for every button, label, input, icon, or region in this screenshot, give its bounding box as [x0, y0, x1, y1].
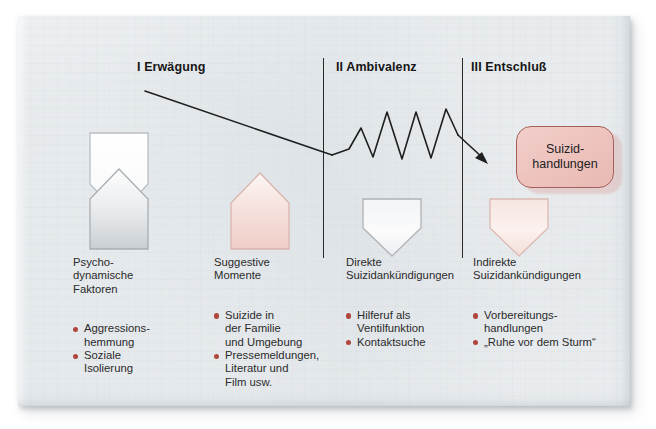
- list-item: Hilferuf als Ventilfunktion: [346, 309, 471, 336]
- result-line-1: Suizid-: [546, 142, 584, 157]
- column-bullets-3: Hilferuf als Ventilfunktion Kontaktsuche: [346, 309, 471, 349]
- column-bullets-1: Aggressions- hemmung Soziale Isolierung: [73, 322, 178, 376]
- trend-line-erwaegung: [145, 91, 332, 155]
- result-line-2: handlungen: [532, 157, 597, 172]
- diagram-page: I Erwägung II Ambivalenz III Entschluß: [18, 16, 630, 406]
- pentagon-down-col3: [363, 199, 421, 256]
- column-title-2: Suggestive Momente: [214, 256, 334, 283]
- list-item: Vorbereitungs- handlungen: [473, 309, 613, 336]
- diagram-canvas: I Erwägung II Ambivalenz III Entschluß: [18, 16, 630, 406]
- list-item: Pressemeldungen, Literatur und Film usw.: [214, 349, 334, 389]
- column-title-1: Psycho- dynamische Faktoren: [73, 256, 178, 296]
- arrow-to-result-head: [475, 152, 488, 164]
- column-title-4: Indirekte Suizidankündigungen: [473, 256, 613, 283]
- column-indirekte-suizidankuendigungen: Indirekte Suizidankündigungen Vorbereitu…: [473, 256, 613, 349]
- pentagon-down-col4: [490, 199, 548, 256]
- result-box-suizidhandlungen: Suizid- handlungen: [516, 126, 614, 188]
- list-item: Suizide in der Familie und Umgebung: [214, 309, 334, 349]
- column-psychodynamische-faktoren: Psycho- dynamische Faktoren Aggressions-…: [73, 256, 178, 376]
- list-item: „Ruhe vor dem Sturm“: [473, 336, 613, 349]
- column-suggestive-momente: Suggestive Momente Suizide in der Famili…: [214, 256, 334, 389]
- column-title-3: Direkte Suizidankündigungen: [346, 256, 471, 283]
- column-direkte-suizidankuendigungen: Direkte Suizidankündigungen Hilferuf als…: [346, 256, 471, 349]
- pentagon-up-col2: [231, 173, 289, 249]
- zigzag-ambivalenz: [332, 109, 458, 159]
- column-bullets-4: Vorbereitungs- handlungen „Ruhe vor dem …: [473, 309, 613, 349]
- list-item: Kontaktsuche: [346, 336, 471, 349]
- scanned-page-background: I Erwägung II Ambivalenz III Entschluß: [0, 0, 656, 429]
- list-item: Soziale Isolierung: [73, 349, 178, 376]
- column-bullets-2: Suizide in der Familie und Umgebung Pres…: [214, 309, 334, 389]
- list-item: Aggressions- hemmung: [73, 322, 178, 349]
